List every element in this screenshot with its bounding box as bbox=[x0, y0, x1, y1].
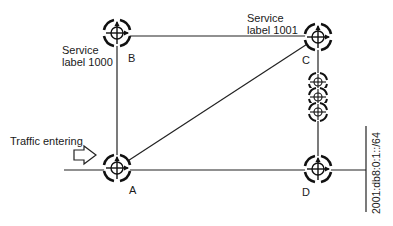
router-d bbox=[305, 156, 331, 182]
router-a bbox=[104, 155, 130, 181]
link-a-c bbox=[117, 37, 318, 168]
router-icon bbox=[104, 155, 130, 181]
prefix-label: 2001:db8:0:1::/64 bbox=[370, 132, 382, 214]
service-label-b-line2: label 1000 bbox=[62, 56, 113, 68]
router-icon bbox=[305, 24, 331, 50]
intermediate-routers bbox=[309, 73, 327, 121]
network-diagram bbox=[0, 0, 393, 226]
router-label-c: C bbox=[302, 54, 310, 66]
service-label-b-line1: Service bbox=[62, 44, 99, 56]
router-label-d: D bbox=[302, 186, 310, 198]
router-label-a: A bbox=[129, 184, 136, 196]
router-b bbox=[104, 20, 130, 46]
router-icon bbox=[309, 103, 327, 121]
traffic-entering-label: Traffic entering bbox=[10, 135, 83, 147]
service-label-c-line2: label 1001 bbox=[247, 24, 298, 36]
router-icon bbox=[305, 156, 331, 182]
service-label-c-line1: Service bbox=[247, 12, 284, 24]
traffic-arrow-icon bbox=[74, 146, 96, 164]
router-c bbox=[305, 24, 331, 50]
router-label-b: B bbox=[128, 52, 135, 64]
router-icon bbox=[104, 20, 130, 46]
